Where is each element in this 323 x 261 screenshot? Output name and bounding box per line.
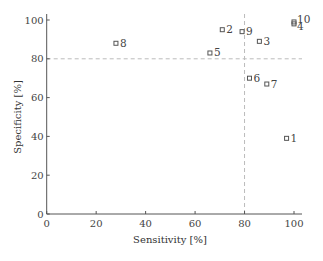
y-tick-label: 60 xyxy=(31,92,44,103)
y-axis-ticks: 020406080100 xyxy=(25,15,50,220)
x-tick-label: 40 xyxy=(139,218,152,229)
data-point: 7 xyxy=(265,78,278,90)
data-point: 10 xyxy=(292,13,310,25)
y-tick-label: 100 xyxy=(25,15,44,26)
data-point: 9 xyxy=(240,25,253,37)
x-tick-label: 80 xyxy=(238,218,251,229)
square-marker-icon xyxy=(265,82,269,86)
chart-canvas: 020406080100 020406080100 12345678910 Se… xyxy=(0,0,323,261)
y-axis-title: Specificity [%] xyxy=(12,80,23,154)
data-point-label: 8 xyxy=(120,37,127,49)
data-points: 12345678910 xyxy=(114,13,310,144)
y-tick-label: 40 xyxy=(31,131,44,142)
data-point-label: 5 xyxy=(214,46,221,58)
data-point-label: 10 xyxy=(297,13,310,25)
scatter-chart: 020406080100 020406080100 12345678910 Se… xyxy=(0,0,323,261)
data-point: 8 xyxy=(114,37,127,49)
y-tick-label: 0 xyxy=(37,209,43,220)
square-marker-icon xyxy=(220,28,224,32)
data-point: 6 xyxy=(247,72,260,84)
data-point: 5 xyxy=(208,46,221,58)
x-axis-title: Sensitivity [%] xyxy=(133,234,207,245)
square-marker-icon xyxy=(247,76,251,80)
data-point-label: 1 xyxy=(291,132,298,144)
data-point-label: 3 xyxy=(263,35,270,47)
data-point-label: 9 xyxy=(246,25,253,37)
data-point-label: 7 xyxy=(271,78,278,90)
data-point-label: 2 xyxy=(226,23,233,35)
y-tick-label: 20 xyxy=(31,170,44,181)
x-tick-label: 20 xyxy=(90,218,103,229)
data-point: 1 xyxy=(285,132,298,144)
square-marker-icon xyxy=(285,136,289,140)
x-tick-label: 60 xyxy=(189,218,202,229)
data-point: 3 xyxy=(257,35,270,47)
square-marker-icon xyxy=(114,41,118,45)
x-tick-label: 100 xyxy=(284,218,303,229)
square-marker-icon xyxy=(240,30,244,34)
square-marker-icon xyxy=(257,39,261,43)
y-tick-label: 80 xyxy=(31,53,44,64)
x-tick-label: 0 xyxy=(44,218,50,229)
data-point: 2 xyxy=(220,23,233,35)
square-marker-icon xyxy=(208,51,212,55)
data-point-label: 6 xyxy=(253,72,260,84)
